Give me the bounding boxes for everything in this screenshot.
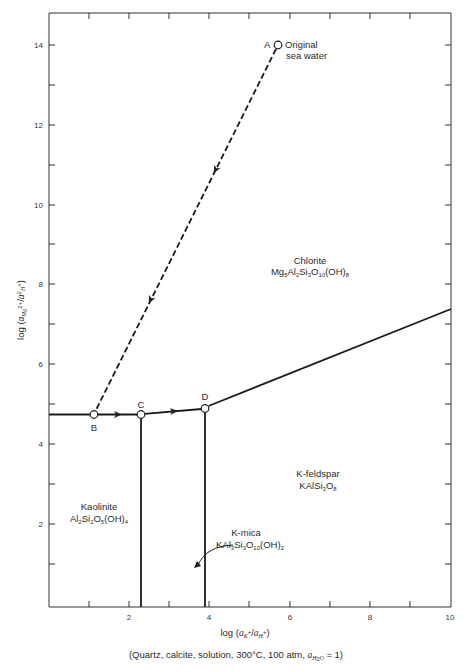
kaolinite-formula: Al2Si2O5(OH)4 xyxy=(70,513,129,525)
x-tick-6: 6 xyxy=(288,613,293,622)
y-tick-6: 6 xyxy=(39,360,44,369)
point-c-marker xyxy=(137,411,145,419)
point-d-marker xyxy=(201,405,209,413)
kmica-label: K-mica xyxy=(231,527,261,538)
x-tick-2: 2 xyxy=(127,613,132,622)
kfeldspar-formula: KAlSi3O8 xyxy=(299,480,337,492)
y-tick-12: 12 xyxy=(34,121,43,130)
phase-diagram: 14 12 10 8 6 4 2 2 4 6 8 10 log (aK+/aH+… xyxy=(0,0,468,671)
point-b-marker xyxy=(90,411,98,419)
kaolinite-label: Kaolinite xyxy=(81,501,117,512)
chlorite-label: Chlorite xyxy=(294,255,327,266)
x-tick-8: 8 xyxy=(368,613,373,622)
x-axis-title: log (aK+/aH+) xyxy=(220,627,269,639)
kmica-formula: KAl3Si3O10(OH)2 xyxy=(216,539,285,551)
point-c-label: C xyxy=(138,399,145,410)
phase-boundaries xyxy=(49,309,451,607)
point-a-note-line2: sea water xyxy=(286,50,327,61)
y-tick-labels: 14 12 10 8 6 4 2 xyxy=(34,41,43,529)
y-tick-14: 14 xyxy=(34,41,43,50)
point-a-label: A xyxy=(264,39,271,50)
top-ticks xyxy=(89,13,410,19)
point-a-note-line1: Original xyxy=(285,39,318,50)
point-a-marker xyxy=(274,41,282,49)
point-d-label: D xyxy=(202,391,209,402)
y-tick-2: 2 xyxy=(39,520,44,529)
x-tick-10: 10 xyxy=(446,613,455,622)
kfeldspar-label: K-feldspar xyxy=(296,468,339,479)
x-tick-labels: 2 4 6 8 10 xyxy=(127,613,455,622)
y-tick-8: 8 xyxy=(39,280,44,289)
reaction-path-bcd xyxy=(98,409,202,415)
y-tick-10: 10 xyxy=(34,201,43,210)
y-axis-ticks xyxy=(49,45,55,564)
chart-caption: (Quartz, calcite, solution, 300°C, 100 a… xyxy=(129,649,343,662)
x-axis-ticks xyxy=(89,601,410,607)
point-b-label: B xyxy=(91,422,97,433)
right-ticks xyxy=(445,45,451,564)
chlorite-kfeldspar-boundary xyxy=(209,309,452,406)
x-tick-4: 4 xyxy=(207,613,212,622)
reaction-path-ab xyxy=(96,49,277,411)
y-tick-4: 4 xyxy=(39,440,44,449)
chlorite-formula: Mg5Al2Si3O10(OH)8 xyxy=(271,266,350,278)
y-axis-title: log (aMg2+/a2H+) xyxy=(15,280,27,340)
